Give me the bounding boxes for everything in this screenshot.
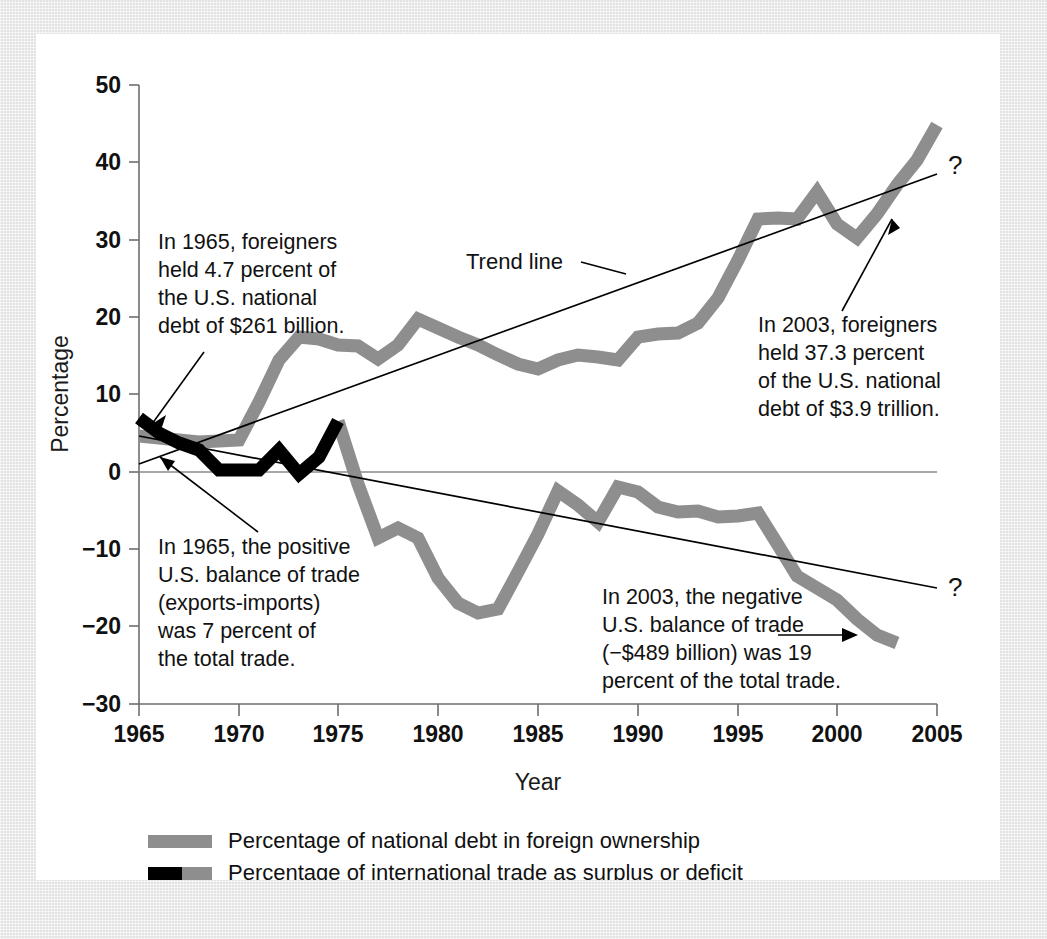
ann-debt-2003-line-1: held 37.3 percent <box>758 341 924 365</box>
x-tick-label-1985: 1985 <box>512 721 563 747</box>
ann-trade-2003-arrowhead <box>842 628 858 642</box>
ann-trade-1965-arrowhead <box>160 457 175 471</box>
ann-trade-1965-line-1: U.S. balance of trade <box>158 563 360 587</box>
debt-line <box>139 125 937 442</box>
legend-label-trade-balance: Percentage of international trade as sur… <box>228 860 743 880</box>
ann-debt-1965-line-0: In 1965, foreigners <box>158 230 337 254</box>
annotation-debt-2003: In 2003, foreigners held 37.3 percent of… <box>758 219 941 421</box>
ann-debt-2003-line-3: debt of $3.9 trillion. <box>758 397 940 421</box>
y-tick-label-40: 40 <box>95 149 121 175</box>
ann-debt-1965-leader <box>152 352 204 424</box>
y-tick-label-m10: −10 <box>82 536 121 562</box>
figure-card: 50 40 30 20 10 0 −10 −20 −30 <box>36 34 1000 880</box>
chart-figure: 50 40 30 20 10 0 −10 −20 −30 <box>36 34 1000 880</box>
ann-debt-2003-line-2: of the U.S. national <box>758 369 941 393</box>
ann-trade-2003-line-3: percent of the total trade. <box>602 669 841 693</box>
y-tick-label-20: 20 <box>95 304 121 330</box>
legend: Percentage of national debt in foreign o… <box>148 828 743 880</box>
x-tick-label-2000: 2000 <box>811 721 862 747</box>
x-tick-label-1990: 1990 <box>612 721 663 747</box>
trend-line-label-group: Trend line <box>466 249 626 274</box>
legend-swatch-trade-grey <box>182 867 212 880</box>
trade-line-grey <box>338 421 897 643</box>
ann-trade-1965-line-0: In 1965, the positive <box>158 535 350 559</box>
y-tick-label-0: 0 <box>108 459 121 485</box>
trade-trendline-question-mark: ? <box>948 572 962 602</box>
debt-trendline-question-mark: ? <box>948 150 962 180</box>
ann-debt-1965-line-2: the U.S. national <box>158 286 317 310</box>
annotation-trade-1965: In 1965, the positive U.S. balance of tr… <box>157 457 360 671</box>
ann-trade-1965-line-4: the total trade. <box>158 647 295 671</box>
ann-debt-2003-line-0: In 2003, foreigners <box>758 313 937 337</box>
y-axis-title: Percentage <box>47 335 73 453</box>
x-axis-title: Year <box>515 769 562 795</box>
ann-trade-1965-line-3: was 7 percent of <box>157 619 316 643</box>
series-national-debt-foreign-ownership <box>139 125 937 442</box>
trend-line-label: Trend line <box>466 249 563 274</box>
y-tick-label-m20: −20 <box>82 613 121 639</box>
ann-trade-1965-line-2: (exports-imports) <box>158 591 320 615</box>
ann-debt-1965-line-1: held 4.7 percent of <box>158 258 336 282</box>
ann-debt-1965-line-3: debt of $261 billion. <box>158 314 344 338</box>
x-tick-label-1975: 1975 <box>312 721 363 747</box>
legend-swatch-national-debt <box>148 835 212 848</box>
x-tick-label-1995: 1995 <box>712 721 763 747</box>
ann-trade-2003-line-0: In 2003, the negative <box>602 585 803 609</box>
ann-trade-2003-line-2: (−$489 billion) was 19 <box>602 641 812 665</box>
x-tick-label-2005: 2005 <box>911 721 962 747</box>
y-tick-label-m30: −30 <box>82 691 121 717</box>
ann-trade-2003-line-1: U.S. balance of trade <box>602 613 804 637</box>
legend-swatch-trade-black <box>148 867 182 880</box>
x-tick-label-1965: 1965 <box>113 721 164 747</box>
annotation-debt-1965: In 1965, foreigners held 4.7 percent of … <box>152 230 344 427</box>
legend-label-national-debt: Percentage of national debt in foreign o… <box>228 828 700 853</box>
trend-line-leader <box>581 262 626 274</box>
y-tick-label-10: 10 <box>95 381 121 407</box>
y-tick-label-50: 50 <box>95 72 121 98</box>
x-tick-label-1970: 1970 <box>213 721 264 747</box>
annotation-trade-2003: In 2003, the negative U.S. balance of tr… <box>602 585 858 693</box>
y-tick-label-30: 30 <box>95 227 121 253</box>
x-tick-label-1980: 1980 <box>412 721 463 747</box>
page-root: 50 40 30 20 10 0 −10 −20 −30 <box>0 0 1047 939</box>
